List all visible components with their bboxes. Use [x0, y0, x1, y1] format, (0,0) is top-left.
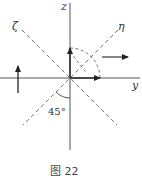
- dashed-chord: [70, 52, 86, 72]
- eta-axis-label: η: [118, 21, 125, 32]
- angle-label: 45°: [48, 107, 66, 117]
- z-axis-label: z: [61, 1, 67, 12]
- y-axis-label: y: [132, 80, 138, 91]
- angle-arc: [56, 92, 70, 98]
- figure-caption: 图 22: [50, 166, 79, 176]
- zeta-axis-label: ζ: [12, 21, 18, 32]
